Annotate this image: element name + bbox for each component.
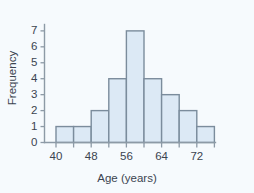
y-axis-tick-label: 1 [31,120,37,132]
y-axis-tick-label: 4 [31,72,38,84]
y-axis-tick-label: 3 [31,88,37,100]
y-axis-title: Frequency [6,51,18,106]
x-axis-tick-label: 64 [155,150,168,162]
histogram-bar [126,31,144,143]
histogram-bar [91,111,109,143]
histogram-bar [162,95,180,143]
histogram-bar [109,79,127,143]
histogram-bar [144,79,162,143]
histogram-bar [56,127,74,143]
x-axis-tick-label: 40 [50,150,63,162]
histogram-bar [179,111,197,143]
y-axis-tick-label: 6 [31,40,37,52]
x-axis-tick-label: 56 [120,150,133,162]
y-axis-tick-label: 7 [31,24,37,36]
x-axis-tick-label: 48 [85,150,98,162]
histogram-plot-area: 4048566472 01234567 Age (years) Frequenc… [0,0,254,193]
y-axis-tick-label: 2 [31,104,37,116]
y-axis-tick-label: 0 [31,136,37,148]
y-axis-tick-label: 5 [31,56,37,68]
histogram-bar [197,127,215,143]
x-axis-title: Age (years) [97,172,157,184]
histogram-chart: 4048566472 01234567 Age (years) Frequenc… [0,0,254,193]
histogram-bar [74,127,92,143]
x-axis-tick-label: 72 [190,150,203,162]
